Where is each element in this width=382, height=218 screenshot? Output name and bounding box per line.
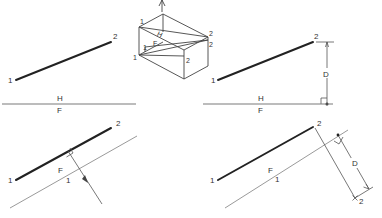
fold-label-f: F (268, 166, 273, 175)
fold-label-1: 1 (275, 175, 280, 184)
point-cross-mark (353, 196, 358, 201)
point-label-1: 1 (210, 176, 215, 185)
box-edge (184, 66, 208, 79)
pictorial-box: 1 1 H F 1 2 2 2 (133, 0, 213, 79)
fold-label-f: F (58, 166, 63, 175)
line-1-2 (218, 42, 313, 80)
pictorial-label-h: H (156, 30, 164, 38)
line-1-2 (16, 128, 111, 180)
panel-top-right: 1 2 D H F (203, 32, 334, 115)
fold-label-h: H (258, 94, 264, 103)
fold-label-1: 1 (66, 176, 71, 185)
pictorial-label-f: F (153, 40, 157, 47)
fold-label-f: F (258, 106, 263, 115)
point-label-1: 1 (8, 76, 13, 85)
panel-top-left: 1 2 H F (2, 32, 136, 115)
pictorial-label-1-front: 1 (133, 54, 137, 61)
dimension-label-d: D (352, 159, 358, 168)
point-label-1: 1 (211, 76, 216, 85)
point-label-2: 2 (113, 32, 118, 41)
extension-line (355, 187, 373, 198)
point-label-2: 2 (314, 32, 319, 41)
pictorial-label-2-side: 2 (209, 41, 213, 48)
pictorial-line-front (139, 55, 184, 56)
panel-bottom-left: 1 2 F 1 (8, 119, 137, 208)
descriptive-geometry-figure: 1 2 H F 1 1 H F 1 2 2 2 (0, 0, 382, 218)
panel-bottom-right: 1 2 D 2 F 1 (210, 119, 373, 208)
fold-label-h: H (57, 94, 63, 103)
line-1-2 (16, 42, 111, 80)
pictorial-label-1-top: 1 (140, 18, 144, 25)
point-label-1: 1 (8, 176, 13, 185)
dimension-dot (337, 134, 340, 137)
pictorial-label-2-front: 2 (186, 57, 190, 64)
sight-arrow-icon (82, 175, 88, 183)
dimension-label-d: D (323, 70, 329, 79)
projected-point-label-2: 2 (359, 197, 364, 206)
fold-label-f: F (57, 106, 62, 115)
pictorial-label-1-aux: 1 (143, 44, 147, 51)
pictorial-label-2-top: 2 (209, 30, 213, 37)
dimension-arrow-bottom (364, 184, 370, 189)
point-label-2: 2 (317, 119, 322, 128)
box-edge (139, 55, 184, 79)
point-label-2: 2 (116, 119, 121, 128)
pictorial-line-diag (139, 40, 208, 55)
line-1-2 (218, 127, 313, 180)
